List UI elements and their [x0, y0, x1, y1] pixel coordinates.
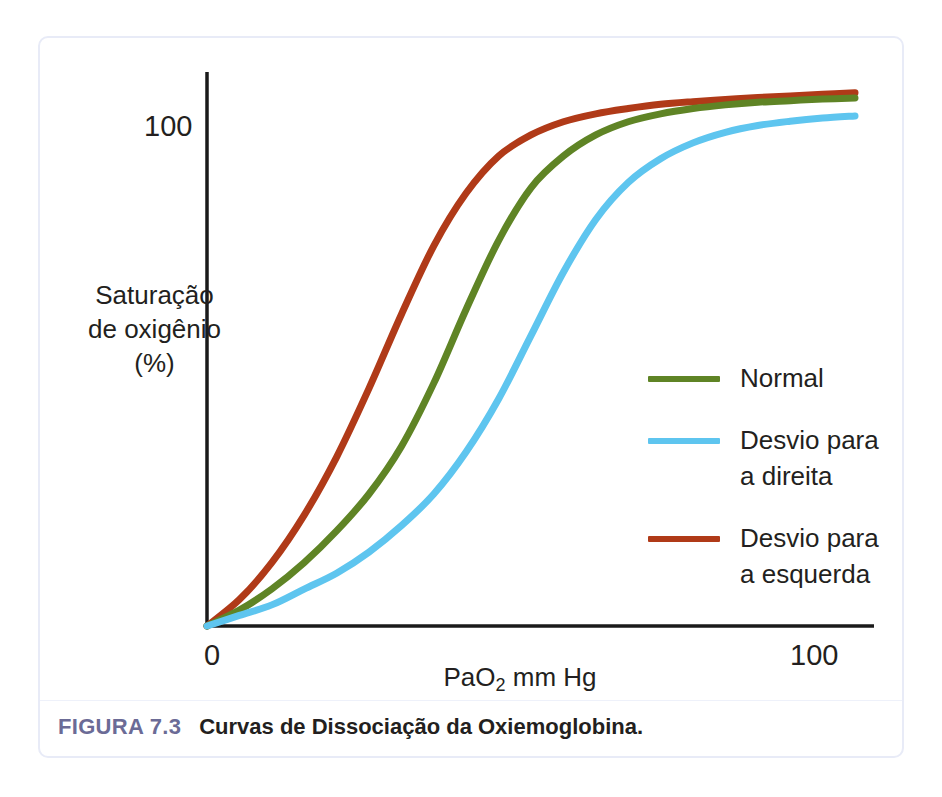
legend-swatch-desvio-esquerda — [648, 536, 720, 542]
y-axis-title-line1: Saturação — [95, 280, 214, 310]
figure-caption: FIGURA 7.3 Curvas de Dissociação da Oxie… — [58, 714, 643, 740]
legend-label-esquerda-line1: Desvio para — [740, 523, 879, 553]
plot-area: 100 0 100 Saturação de oxigênio (%) PaO2… — [40, 38, 906, 698]
x-axis-title: PaO2 mm Hg — [370, 662, 670, 693]
legend-item-normal[interactable]: Normal — [648, 360, 898, 396]
figure-frame: 100 0 100 Saturação de oxigênio (%) PaO2… — [38, 36, 904, 758]
y-axis-title-line2: de oxigênio — [88, 314, 221, 344]
legend-label-desvio-esquerda: Desvio para a esquerda — [740, 520, 879, 592]
legend-label-esquerda-line2: a esquerda — [740, 559, 870, 589]
legend-label-normal-line1: Normal — [740, 363, 824, 393]
y-axis-title-line3: (%) — [134, 348, 174, 378]
legend-swatch-desvio-direita — [648, 438, 720, 444]
legend-item-desvio-direita[interactable]: Desvio para a direita — [648, 422, 898, 494]
legend-label-direita-line2: a direita — [740, 461, 833, 491]
figure-caption-number: FIGURA 7.3 — [58, 714, 181, 740]
chart-legend: Normal Desvio para a direita Desvio para… — [648, 360, 898, 618]
x-axis-title-subscript: 2 — [496, 675, 506, 695]
legend-item-desvio-esquerda[interactable]: Desvio para a esquerda — [648, 520, 898, 592]
legend-label-normal: Normal — [740, 360, 824, 396]
figure-caption-text: Curvas de Dissociação da Oxiemoglobina. — [199, 714, 643, 740]
legend-label-desvio-direita: Desvio para a direita — [740, 422, 879, 494]
x-axis-title-main: PaO — [443, 662, 495, 692]
legend-swatch-normal — [648, 376, 720, 382]
y-axis-title: Saturação de oxigênio (%) — [62, 278, 247, 380]
x-axis-tick-label-100: 100 — [790, 639, 838, 672]
x-axis-tick-label-0: 0 — [204, 639, 220, 672]
y-axis-tick-label-100: 100 — [144, 110, 192, 143]
x-axis-title-units: mm Hg — [506, 662, 597, 692]
legend-label-direita-line1: Desvio para — [740, 425, 879, 455]
caption-divider — [40, 700, 902, 701]
